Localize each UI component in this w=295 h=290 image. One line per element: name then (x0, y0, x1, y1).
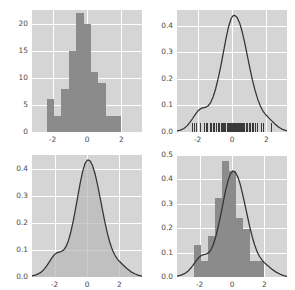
panel-bottom-right-hist-kde: 0.00.10.20.30.40.5 -202 (147, 145, 295, 290)
x-tick-label: 0 (220, 281, 244, 289)
rug-tick (200, 123, 201, 132)
y-tick-label: 0.2 (0, 219, 28, 227)
y-tick-label: 0.0 (0, 273, 28, 281)
y-tick-label: 10 (0, 74, 28, 82)
y-tick-label: 0.3 (147, 200, 173, 208)
y-tick-label: 0.1 (0, 246, 28, 254)
x-tick-label: 2 (254, 136, 278, 144)
x-tick-label: 2 (109, 136, 133, 144)
x-tick-label: -2 (188, 281, 212, 289)
y-tick-label: 0.2 (147, 224, 173, 232)
kde-line (177, 15, 287, 131)
y-tick-label: 0.4 (147, 22, 173, 30)
figure-canvas: 05101520 -202 0.00.10.20.30.4 -202 0.00.… (0, 0, 295, 290)
y-tick-label: 0.0 (147, 128, 173, 136)
gridline-vertical (121, 10, 122, 132)
y-tick-label: 0.2 (147, 75, 173, 83)
panel-top-right-kde-rug: 0.00.10.20.30.4 -202 (147, 0, 295, 145)
y-tick-label: 0.4 (0, 165, 28, 173)
x-tick-label: -2 (43, 281, 67, 289)
y-tick-label: 0.1 (147, 249, 173, 257)
x-tick-label: 2 (252, 281, 276, 289)
y-tick-label: 0.4 (147, 175, 173, 183)
y-tick-label: 0.3 (147, 48, 173, 56)
histogram-bar (47, 99, 54, 132)
y-tick-label: 0 (0, 128, 28, 136)
histogram-bar (98, 83, 105, 132)
rug-tick (257, 123, 258, 132)
plot-area-top-left (32, 10, 142, 132)
rug-tick (263, 123, 264, 132)
kde-line (177, 171, 287, 276)
panel-bottom-left-kde-filled: 0.00.10.20.30.4 -202 (0, 145, 147, 290)
x-tick-label: -2 (41, 136, 65, 144)
kde-curve-group (177, 10, 287, 132)
histogram-bar (54, 116, 61, 132)
y-tick-label: 15 (0, 47, 28, 55)
plot-area-bottom-left (32, 155, 142, 277)
histogram-bar (76, 13, 83, 132)
y-tick-label: 0.1 (147, 101, 173, 109)
histogram-bar (61, 89, 68, 132)
histogram-bar (69, 51, 76, 132)
x-tick-label: 0 (220, 136, 244, 144)
kde-curve-group (177, 155, 287, 277)
x-tick-label: 0 (75, 136, 99, 144)
x-tick-label: 0 (75, 281, 99, 289)
x-tick-label: 2 (107, 281, 131, 289)
y-tick-label: 20 (0, 20, 28, 28)
kde-curve-group (32, 155, 142, 277)
rug-tick (271, 123, 272, 132)
histogram-bar (84, 24, 91, 132)
y-tick-label: 0.3 (0, 192, 28, 200)
histogram-bar (106, 116, 113, 132)
histogram-bar (91, 72, 98, 132)
y-tick-label: 0.5 (147, 151, 173, 159)
rug-tick (196, 123, 197, 132)
rug-tick (211, 123, 212, 132)
y-tick-label: 5 (0, 101, 28, 109)
kde-fill (32, 160, 142, 277)
y-tick-label: 0.0 (147, 273, 173, 281)
plot-area-bottom-right (177, 155, 287, 277)
panel-top-left-histogram: 05101520 -202 (0, 0, 147, 145)
rug-tick (204, 123, 205, 132)
histogram-bar (113, 116, 120, 132)
rug-tick (255, 123, 256, 132)
plot-area-top-right (177, 10, 287, 132)
rug-tick (207, 123, 208, 132)
x-tick-label: -2 (186, 136, 210, 144)
